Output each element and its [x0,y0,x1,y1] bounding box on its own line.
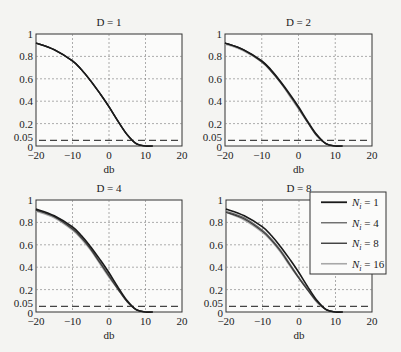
subplot-title: D = 2 [286,16,311,28]
y-tick-label: 0.05 [14,297,34,309]
y-tick-label: 0.05 [204,297,224,309]
x-tick-label: 10 [140,149,152,161]
y-tick-label: 1 [28,28,34,40]
y-tick-label: 0.8 [209,216,223,228]
x-tick-label: 20 [177,149,189,161]
y-tick-label: 0.6 [19,239,33,251]
y-tick-label: 0.8 [19,50,33,62]
y-tick-label: 0.4 [208,95,222,107]
x-tick-label: 10 [330,315,342,327]
y-tick-label: 1 [28,194,34,206]
subplot-grid: D = 1−20−100102000.050.20.40.60.81dbD = … [14,16,378,341]
y-tick-label: 0.2 [19,284,33,296]
x-axis-label: db [104,329,116,341]
y-tick-label: 0.2 [19,118,33,130]
x-tick-label: 0 [296,315,302,327]
y-tick-label: 0.6 [208,73,222,85]
x-tick-label: −10 [253,149,271,161]
y-tick-label: 0.05 [203,131,223,143]
subplot-2: D = 2−20−100102000.050.20.40.60.81db [203,16,378,175]
x-tick-label: −10 [64,315,82,327]
subplot-title: D = 4 [96,182,122,194]
x-axis-label: db [294,329,306,341]
subplot-3: D = 4−20−100102000.050.20.40.60.81db [14,182,188,341]
y-tick-label: 0.2 [209,284,223,296]
y-tick-label: 0.05 [14,131,34,143]
y-tick-label: 0.8 [19,216,33,228]
y-tick-label: 0.4 [19,95,33,107]
y-tick-label: 0.4 [209,261,223,273]
x-axis-label: db [293,163,305,175]
legend: Ni = 1Ni = 4Ni = 8Ni = 16 [310,192,386,274]
x-tick-label: −10 [64,149,82,161]
y-tick-label: 0.6 [19,73,33,85]
x-tick-label: 10 [330,149,342,161]
x-tick-label: 10 [140,315,152,327]
x-tick-label: 20 [177,315,189,327]
y-tick-label: 1 [217,28,223,40]
figure: D = 1−20−100102000.050.20.40.60.81dbD = … [0,0,401,352]
x-tick-label: 0 [106,315,112,327]
subplot-title: D = 1 [96,16,121,28]
x-tick-label: 0 [106,149,112,161]
subplot-1: D = 1−20−100102000.050.20.40.60.81db [14,16,188,175]
x-axis-label: db [104,163,116,175]
x-tick-label: 20 [367,149,379,161]
y-tick-label: 0.8 [208,50,222,62]
x-tick-label: −10 [254,315,272,327]
subplot-title: D = 8 [286,182,312,194]
y-tick-label: 0.2 [208,118,222,130]
x-tick-label: 0 [296,149,302,161]
x-tick-label: 20 [367,315,379,327]
y-tick-label: 0.4 [19,261,33,273]
y-tick-label: 0.6 [209,239,223,251]
y-tick-label: 1 [218,194,224,206]
